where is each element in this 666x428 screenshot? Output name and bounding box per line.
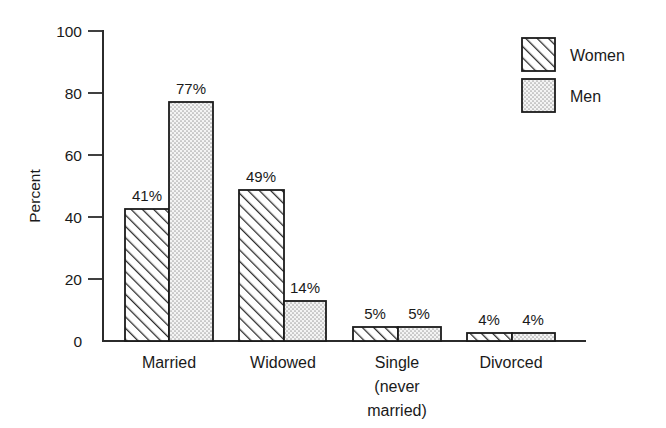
bar-divorced-women[interactable] xyxy=(467,333,512,341)
bar-label-widowed-men: 14% xyxy=(290,279,320,296)
category-labels: Married Widowed Single (never married) D… xyxy=(142,354,543,419)
bar-group-single: 5% 5% xyxy=(353,305,441,341)
category-label-single: Single xyxy=(375,354,420,371)
legend-entry-women[interactable]: Women xyxy=(522,38,625,71)
bar-label-single-women: 5% xyxy=(364,305,386,322)
bar-group-married: 41% 77% xyxy=(125,80,213,341)
y-tick-label-100: 100 xyxy=(56,23,82,40)
bar-single-men[interactable] xyxy=(398,327,441,341)
bar-label-married-men: 77% xyxy=(176,80,206,97)
legend-swatch-men-icon xyxy=(522,79,555,112)
chart-canvas: 100 80 60 40 20 0 Percent 41% 77% 49% 14… xyxy=(0,0,666,428)
legend-label-women: Women xyxy=(570,47,625,64)
category-label-widowed: Widowed xyxy=(250,354,316,371)
category-label-single-line2: (never xyxy=(374,378,420,395)
bar-widowed-men[interactable] xyxy=(284,301,326,341)
category-label-divorced: Divorced xyxy=(479,354,542,371)
bar-label-married-women: 41% xyxy=(132,187,162,204)
bar-single-women[interactable] xyxy=(353,327,398,341)
bar-group-divorced: 4% 4% xyxy=(467,311,555,341)
bar-married-women[interactable] xyxy=(125,209,169,341)
bar-label-divorced-men: 4% xyxy=(522,311,544,328)
bar-widowed-women[interactable] xyxy=(239,190,284,341)
legend: Women Men xyxy=(522,38,625,112)
legend-entry-men[interactable]: Men xyxy=(522,79,601,112)
y-tick-label-60: 60 xyxy=(65,147,83,164)
y-axis-title: Percent xyxy=(26,169,43,223)
bar-label-single-men: 5% xyxy=(408,305,430,322)
y-axis: 100 80 60 40 20 0 Percent xyxy=(26,23,103,350)
y-tick-label-20: 20 xyxy=(65,271,83,288)
bar-label-widowed-women: 49% xyxy=(246,168,276,185)
y-tick-label-0: 0 xyxy=(73,333,82,350)
y-tick-label-80: 80 xyxy=(65,85,83,102)
bar-group-widowed: 49% 14% xyxy=(239,168,326,341)
category-label-single-line3: married) xyxy=(367,402,427,419)
bar-married-men[interactable] xyxy=(169,102,213,341)
category-label-married: Married xyxy=(142,354,196,371)
legend-label-men: Men xyxy=(570,88,601,105)
legend-swatch-women-icon xyxy=(522,38,555,71)
bar-chart: 100 80 60 40 20 0 Percent 41% 77% 49% 14… xyxy=(0,0,666,428)
y-tick-label-40: 40 xyxy=(65,209,83,226)
bar-divorced-men[interactable] xyxy=(512,333,555,341)
bar-label-divorced-women: 4% xyxy=(478,311,500,328)
